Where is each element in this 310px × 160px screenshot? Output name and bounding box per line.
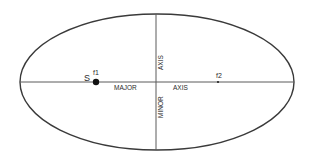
sun-label: S xyxy=(84,73,90,83)
sun-focus-dot xyxy=(93,79,99,85)
focus2-label: f2 xyxy=(216,72,222,79)
major-axis-label: AXIS xyxy=(173,84,188,91)
focus2-dot xyxy=(217,81,219,83)
major-label: MAJOR xyxy=(114,84,137,91)
minor-label: MINOR xyxy=(157,96,164,118)
focus1-label: f1 xyxy=(93,69,99,76)
minor-axis-label: AXIS xyxy=(157,55,164,70)
ellipse-diagram: S f1 f2 MAJOR AXIS AXIS MINOR xyxy=(0,0,310,160)
